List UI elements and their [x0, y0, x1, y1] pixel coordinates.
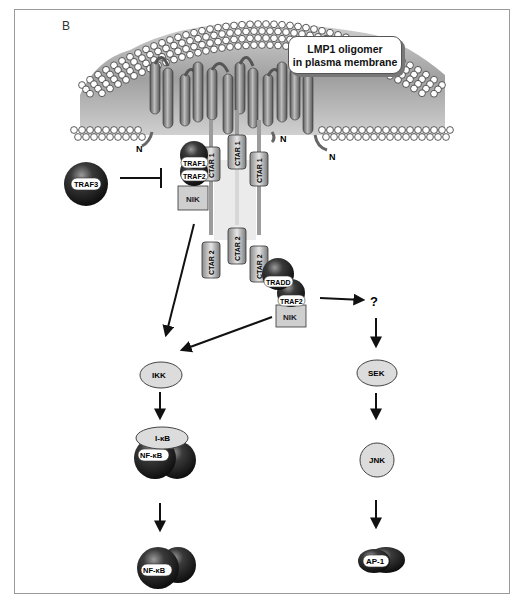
- svg-text:CTAR 1: CTAR 1: [256, 158, 263, 183]
- arrow-nik-to-ikk: [182, 317, 272, 350]
- tradd-label: TRADD: [266, 279, 291, 286]
- left-complex: NIK TRAF2 TRAF1: [178, 141, 208, 210]
- ctar2-domain: CTAR 2: [202, 242, 220, 278]
- callout-line-1: LMP1 oligomer: [289, 43, 401, 56]
- svg-text:CTAR 2: CTAR 2: [208, 250, 215, 275]
- figure-canvas: B: [0, 0, 526, 607]
- svg-text:IKK: IKK: [152, 371, 166, 380]
- ctar2-domain: CTAR 2: [228, 228, 246, 264]
- nik-label: NIK: [186, 195, 200, 204]
- traf3-inhibitor: TRAF3: [64, 162, 161, 206]
- ctar1-domain: CTAR 1: [250, 152, 268, 186]
- n-terminus-label: N: [329, 152, 336, 162]
- jnk-node: JNK: [360, 443, 394, 477]
- nfkb-label: NF-κB: [143, 566, 166, 575]
- pathway-diagram: N N N CTAR 1 CTAR 1 CTAR 1 CTAR 2: [0, 0, 526, 607]
- arrow-to-unknown: [320, 298, 363, 300]
- traf3-label: TRAF3: [74, 180, 98, 189]
- unknown-intermediate: ?: [370, 294, 378, 309]
- callout-line-2: in plasma membrane: [289, 56, 401, 69]
- ap1-label: AP-1: [366, 557, 385, 566]
- svg-text:CTAR 1: CTAR 1: [208, 153, 215, 178]
- traf2-label: TRAF2: [280, 298, 303, 305]
- ikb-label: I-κB: [155, 434, 170, 443]
- sek-node: SEK: [357, 360, 397, 386]
- ikb-nfkb-complex: NF-κB I-κB: [134, 427, 196, 479]
- svg-text:JNK: JNK: [369, 456, 385, 465]
- traf2-label: TRAF2: [183, 173, 206, 180]
- free-nfkb: NF-κB: [137, 547, 196, 589]
- right-complex: NIK TRAF2 TRADD: [262, 258, 306, 327]
- n-terminus-label: N: [280, 134, 287, 144]
- nik-label: NIK: [283, 313, 297, 322]
- ctar1-domain: CTAR 1: [228, 135, 246, 169]
- ap1-complex: AP-1: [358, 547, 405, 573]
- n-terminus-label: N: [136, 144, 143, 154]
- svg-text:SEK: SEK: [368, 369, 385, 378]
- traf1-label: TRAF1: [183, 160, 206, 167]
- svg-text:CTAR 2: CTAR 2: [234, 236, 241, 261]
- arrow-traf-to-ikk: [166, 224, 194, 335]
- nfkb-label: NF-κB: [140, 451, 163, 460]
- svg-text:CTAR 1: CTAR 1: [234, 141, 241, 166]
- lmp1-callout: LMP1 oligomer in plasma membrane: [288, 36, 402, 74]
- svg-text:CTAR 2: CTAR 2: [256, 254, 263, 279]
- ikk-node: IKK: [140, 362, 182, 388]
